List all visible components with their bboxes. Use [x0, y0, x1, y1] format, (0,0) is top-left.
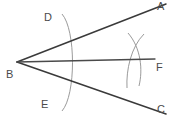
point-label-f: F [156, 62, 163, 73]
ray-BF-bisector [17, 59, 155, 62]
geometry-diagram: A B C D E F [0, 0, 169, 117]
geometry-canvas [0, 0, 169, 117]
arc-from-E [127, 34, 144, 88]
point-label-d: D [44, 12, 52, 23]
arc-DE [62, 14, 73, 111]
point-label-a: A [157, 1, 164, 12]
point-label-e: E [41, 99, 48, 110]
point-label-c: C [157, 104, 165, 115]
ray-BC [17, 62, 166, 114]
point-label-b: B [6, 69, 13, 80]
ray-BA [17, 4, 166, 62]
